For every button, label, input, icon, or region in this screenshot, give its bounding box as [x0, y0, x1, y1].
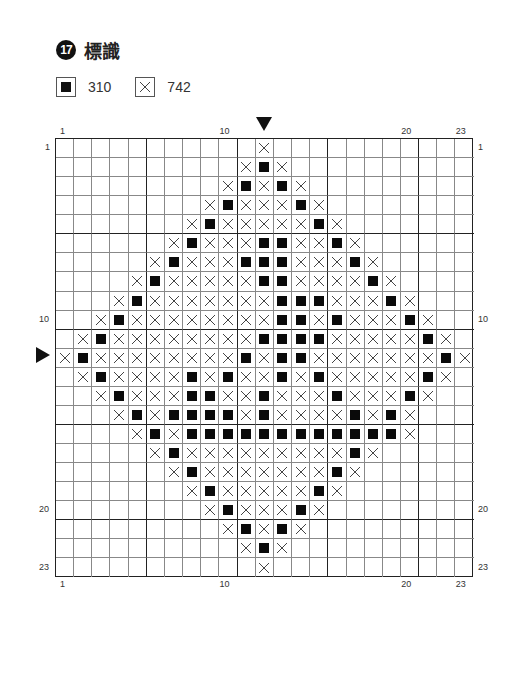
stitch-cell [292, 272, 310, 291]
stitch-cell [56, 558, 74, 577]
cross-icon [222, 390, 234, 402]
stitch-cell [274, 272, 292, 291]
stitch-cell [129, 482, 147, 501]
stitch-cell [365, 558, 383, 577]
cross-icon [258, 485, 270, 497]
cross-icon [168, 466, 180, 478]
stitch-cell [147, 215, 165, 234]
stitch-cell [347, 444, 365, 463]
cross-icon [186, 352, 198, 364]
stitch-cell [310, 139, 328, 158]
stitch-cell [274, 368, 292, 387]
stitch-cell [455, 368, 473, 387]
stitch-cell [129, 444, 147, 463]
stitch-cell [238, 444, 256, 463]
stitch-cell [238, 330, 256, 349]
stitch-cell [201, 501, 219, 520]
stitch-cell [74, 330, 92, 349]
stitch-cell [256, 272, 274, 291]
cross-icon [168, 352, 180, 364]
stitch-cell [256, 539, 274, 558]
cross-icon [385, 352, 397, 364]
stitch-cell [437, 558, 455, 577]
filled-square-icon [296, 334, 306, 344]
cross-icon [331, 409, 343, 421]
stitch-cell [129, 387, 147, 406]
stitch-cell [183, 425, 201, 444]
cross-icon [295, 523, 307, 535]
cross-icon [240, 295, 252, 307]
stitch-cell [292, 520, 310, 539]
filled-square-icon [187, 429, 197, 439]
stitch-cell [401, 463, 419, 482]
cross-icon [149, 390, 161, 402]
cross-icon [258, 199, 270, 211]
stitch-cell [238, 311, 256, 330]
cross-icon [240, 466, 252, 478]
cross-icon [222, 256, 234, 268]
cross-icon [186, 314, 198, 326]
stitch-cell [383, 368, 401, 387]
stitch-cell [201, 425, 219, 444]
filled-square-icon [332, 315, 342, 325]
cross-icon [276, 409, 288, 421]
row-number-label: 10 [478, 314, 488, 324]
stitch-cell [292, 482, 310, 501]
stitch-cell [292, 444, 310, 463]
cross-icon [331, 447, 343, 459]
cross-icon [404, 409, 416, 421]
stitch-cell [274, 196, 292, 215]
stitch-cell [419, 177, 437, 196]
filled-square-icon [132, 410, 142, 420]
stitch-cell [147, 234, 165, 253]
stitch-cell [256, 520, 274, 539]
stitch-cell [347, 387, 365, 406]
stitch-cell [292, 311, 310, 330]
stitch-cell [238, 539, 256, 558]
stitch-cell [437, 425, 455, 444]
stitch-cell [165, 177, 183, 196]
stitch-cell [129, 311, 147, 330]
cross-icon [313, 352, 325, 364]
stitch-cell [437, 272, 455, 291]
stitch-cell [74, 368, 92, 387]
cross-icon [204, 504, 216, 516]
stitch-cell [219, 196, 237, 215]
column-number-label: 20 [401, 126, 411, 136]
filled-square-icon [259, 391, 269, 401]
cross-icon [295, 371, 307, 383]
stitch-cell [183, 158, 201, 177]
stitch-cell [201, 444, 219, 463]
cross-icon [276, 218, 288, 230]
filled-square-icon [277, 238, 287, 248]
filled-square-icon [368, 276, 378, 286]
cross-icon [313, 275, 325, 287]
stitch-cell [365, 330, 383, 349]
stitch-cell [328, 177, 346, 196]
filled-square-icon [314, 334, 324, 344]
stitch-cell [219, 368, 237, 387]
cross-icon [204, 447, 216, 459]
stitch-cell [401, 387, 419, 406]
cross-icon [222, 523, 234, 535]
filled-square-icon [296, 296, 306, 306]
stitch-cell [292, 234, 310, 253]
stitch-cell [129, 406, 147, 425]
cross-icon [95, 314, 107, 326]
stitch-cell [238, 292, 256, 311]
stitch-cell [328, 558, 346, 577]
stitch-cell [383, 253, 401, 272]
stitch-cell [147, 311, 165, 330]
filled-square-icon [205, 410, 215, 420]
filled-square-icon [277, 524, 287, 534]
filled-square-icon [187, 372, 197, 382]
stitch-cell [129, 292, 147, 311]
cross-icon [149, 314, 161, 326]
cross-icon [222, 466, 234, 478]
stitch-cell [238, 349, 256, 368]
stitch-cell [165, 501, 183, 520]
stitch-cell [92, 177, 110, 196]
stitch-cell [455, 139, 473, 158]
filled-square-icon [259, 238, 269, 248]
stitch-cell [201, 368, 219, 387]
